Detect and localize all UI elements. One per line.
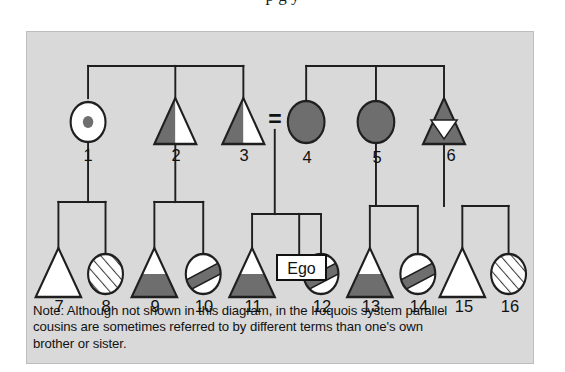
- symbol-label-5: 5: [372, 148, 381, 167]
- symbol-label-1: 1: [83, 146, 92, 165]
- kinship-diagram-page: p g y: [0, 0, 565, 372]
- symbol-label-4: 4: [302, 148, 311, 167]
- note-line-2: cousins are sometimes referred to by dif…: [33, 319, 505, 335]
- top-white-fill: [123, 242, 188, 274]
- triangle-white: [440, 248, 485, 297]
- circle-center-dot: [83, 116, 93, 128]
- top-white-fill: [338, 242, 403, 274]
- figure-panel: = Ego 1 2 3 4 5 6 7 8 9 10 11 12 13 14 1…: [26, 31, 534, 364]
- marriage-equals-sign: =: [268, 106, 281, 133]
- symbol-label-6: 6: [446, 146, 455, 165]
- ego-box[interactable]: Ego: [276, 254, 327, 281]
- circle-hatched: [88, 254, 123, 294]
- symbol-5: [358, 101, 395, 143]
- note-line-1: Note: Although not shown in this diagram…: [33, 303, 505, 319]
- symbol-13: [338, 242, 403, 304]
- diagram-note: Note: Although not shown in this diagram…: [33, 303, 505, 352]
- symbol-7: [36, 248, 81, 297]
- symbol-3: [217, 92, 271, 152]
- symbol-2: [149, 92, 203, 152]
- circle-solid-dark: [358, 101, 395, 143]
- symbol-label-2: 2: [171, 146, 180, 165]
- descent-and-sibling-lines: [58, 66, 508, 256]
- symbol-15: [440, 248, 485, 297]
- triangle-white: [36, 248, 81, 297]
- symbol-16: [491, 254, 526, 294]
- symbol-4: [288, 101, 325, 143]
- symbol-8: [88, 254, 123, 294]
- symbol-6: [423, 98, 465, 144]
- symbol-14: [397, 254, 439, 294]
- symbol-1: [71, 102, 106, 142]
- symbol-label-3: 3: [239, 146, 248, 165]
- circle-hatched: [491, 254, 526, 294]
- cut-off-title-text: p g y: [0, 0, 565, 8]
- symbol-10: [182, 254, 224, 294]
- note-line-3: brother or sister.: [33, 336, 505, 352]
- symbol-9: [123, 242, 188, 304]
- circle-solid-dark: [288, 101, 325, 143]
